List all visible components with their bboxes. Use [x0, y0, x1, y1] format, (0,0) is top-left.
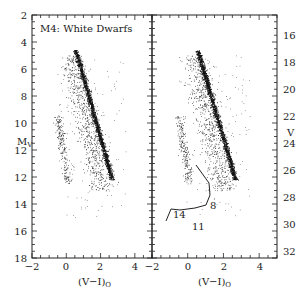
x-axis-label-left: (V−I)O: [78, 276, 111, 289]
svg-text:16: 16: [14, 226, 27, 237]
isochrone-label-11: 11: [192, 221, 205, 232]
svg-text:4: 4: [257, 261, 263, 272]
svg-text:−2: −2: [25, 261, 40, 272]
svg-text:10: 10: [14, 118, 27, 129]
svg-text:32: 32: [283, 246, 296, 257]
cmd-figure: 2 4 6 8 10 12 14 16 18 12 MV 16 18 20 22…: [0, 0, 306, 299]
right-y-tick-labels: 16 18 20 22 24 26 28 30 32: [283, 30, 296, 257]
svg-text:6: 6: [21, 64, 27, 75]
axis-ticks: [32, 15, 277, 258]
svg-text:8: 8: [21, 91, 27, 102]
svg-text:28: 28: [283, 192, 296, 203]
y-axis-label-right: V: [286, 127, 295, 138]
svg-text:20: 20: [283, 84, 296, 95]
panel-title: M4: White Dwarfs: [40, 23, 132, 34]
x-tick-labels: −2 0 2 4 −2 0 2 4: [25, 261, 264, 272]
isochrone-label-14: 14: [173, 209, 186, 220]
svg-text:4: 4: [21, 37, 27, 48]
svg-text:2: 2: [21, 10, 27, 21]
svg-text:12: 12: [14, 172, 27, 183]
svg-text:14: 14: [14, 199, 27, 210]
svg-text:0: 0: [63, 261, 69, 272]
svg-text:22: 22: [283, 111, 296, 122]
scatter-points-left: [53, 50, 126, 218]
svg-text:26: 26: [283, 165, 296, 176]
svg-text:24: 24: [283, 138, 296, 149]
svg-text:2: 2: [97, 261, 103, 272]
scatter-points-right: [175, 51, 250, 217]
svg-text:16: 16: [283, 30, 296, 41]
svg-text:30: 30: [283, 219, 296, 230]
svg-text:0: 0: [185, 261, 191, 272]
svg-text:2: 2: [221, 261, 227, 272]
isochrone-label-8: 8: [210, 200, 216, 211]
svg-text:4: 4: [132, 261, 138, 272]
left-panel-frame: [32, 15, 152, 258]
x-axis-label-right: (V−I)O: [198, 276, 231, 289]
svg-text:18: 18: [283, 57, 296, 68]
svg-text:−2: −2: [145, 261, 160, 272]
